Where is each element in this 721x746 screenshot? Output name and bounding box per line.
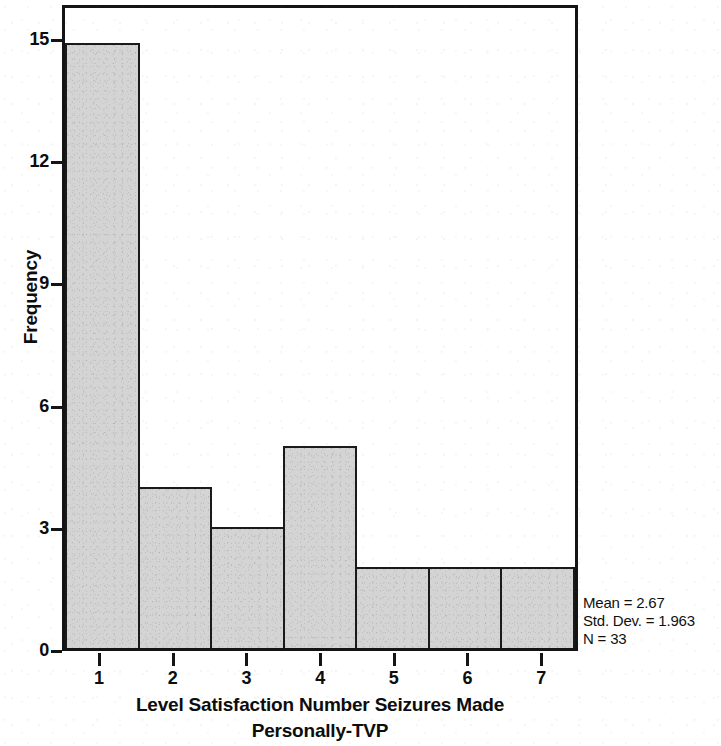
x-axis-tick-label: 5 bbox=[366, 668, 422, 689]
y-axis-tick-label: 3 bbox=[39, 518, 49, 539]
histogram-bar bbox=[428, 567, 503, 648]
y-axis-tick-mark bbox=[51, 39, 62, 42]
y-axis-tick-label: 0 bbox=[39, 640, 49, 661]
y-axis-tick-mark bbox=[51, 650, 62, 653]
x-axis-tick-mark bbox=[98, 653, 101, 666]
histogram-bar bbox=[500, 567, 575, 648]
y-axis-title: Frequency bbox=[20, 237, 42, 357]
x-axis-title-line2: Personally-TVP bbox=[40, 718, 600, 744]
x-axis-title-line1: Level Satisfaction Number Seizures Made bbox=[136, 694, 504, 715]
y-axis-tick-label: 9 bbox=[39, 273, 49, 294]
plot-area bbox=[62, 5, 578, 651]
histogram-bar bbox=[138, 487, 213, 648]
x-axis-tick-mark bbox=[540, 653, 543, 666]
x-axis-tick-label: 3 bbox=[218, 668, 274, 689]
histogram-bar bbox=[210, 527, 285, 648]
x-axis-tick-mark bbox=[172, 653, 175, 666]
mean-label: Mean = 2.67 bbox=[583, 594, 695, 612]
x-axis-tick-mark bbox=[466, 653, 469, 666]
x-axis-tick-mark bbox=[393, 653, 396, 666]
y-axis-tick-label: 15 bbox=[30, 29, 49, 50]
x-axis-tick-mark bbox=[319, 653, 322, 666]
histogram-bar bbox=[283, 446, 358, 648]
x-axis-tick-mark bbox=[245, 653, 248, 666]
histogram-bar bbox=[355, 567, 430, 648]
x-axis-title: Level Satisfaction Number Seizures Made … bbox=[40, 692, 600, 744]
y-axis-tick-mark bbox=[51, 283, 62, 286]
x-axis-tick-label: 2 bbox=[145, 668, 201, 689]
y-axis-tick-mark bbox=[51, 528, 62, 531]
histogram-bar bbox=[65, 43, 140, 648]
y-axis-tick-mark bbox=[51, 161, 62, 164]
x-axis-tick-label: 7 bbox=[513, 668, 569, 689]
y-axis-tick-label: 6 bbox=[39, 396, 49, 417]
x-axis-tick-label: 4 bbox=[292, 668, 348, 689]
statistics-annotation: Mean = 2.67 Std. Dev. = 1.963 N = 33 bbox=[583, 594, 695, 648]
bars-container bbox=[65, 8, 575, 648]
std-dev-label: Std. Dev. = 1.963 bbox=[583, 612, 695, 630]
x-axis-tick-label: 6 bbox=[439, 668, 495, 689]
x-axis-tick-label: 1 bbox=[71, 668, 127, 689]
y-axis-tick-mark bbox=[51, 406, 62, 409]
histogram-chart: Frequency 03691215 1234567 Level Satisfa… bbox=[0, 0, 721, 746]
sample-size-label: N = 33 bbox=[583, 630, 695, 648]
y-axis-tick-label: 12 bbox=[30, 151, 49, 172]
